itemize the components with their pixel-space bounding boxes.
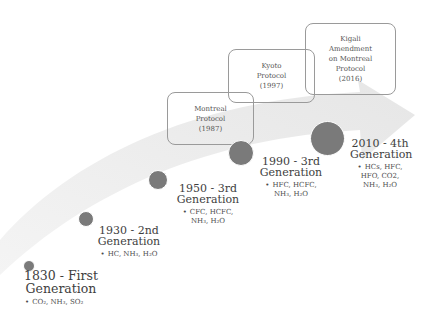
generation-title: 1950 - 3rd Generation <box>172 183 244 205</box>
refrigerant-list: •HCs, HFC, HFO, CO2, NH₃, H₂O <box>350 163 410 190</box>
generation-1930: 1930 - 2nd Generation •HC, NH₃, H₂O <box>93 225 165 259</box>
protocol-label: Montreal <box>194 104 227 114</box>
refrigerant-list: •HC, NH₃, H₂O <box>93 250 165 259</box>
protocol-label: Protocol <box>329 64 373 74</box>
generation-title: 2010 - 4th Generation <box>350 138 410 160</box>
protocol-year: (1997) <box>257 81 287 91</box>
refrigerant-list: •CO₂, NH₃, SO₂ <box>25 298 100 307</box>
protocol-label: Amendment <box>329 44 373 54</box>
protocol-box-kigali: Kigali Amendment on Montreal Protocol (2… <box>305 23 396 95</box>
protocol-label: Protocol <box>194 114 227 124</box>
protocol-label: Protocol <box>257 71 287 81</box>
protocol-box-kyoto: Kyoto Protocol (1997) <box>228 49 315 103</box>
generation-1830: 1830 - First Generation •CO₂, NH₃, SO₂ <box>22 270 100 307</box>
protocol-year: (2016) <box>329 74 373 84</box>
protocol-label: on Montreal <box>329 54 373 64</box>
protocol-year: (1987) <box>194 124 227 134</box>
generation-1990: 1990 - 3rd Generation •HFC, HCFC, NH₃, H… <box>255 156 327 199</box>
generation-2010: 2010 - 4th Generation •HCs, HFC, HFO, CO… <box>350 138 410 190</box>
timeline-dot-1950 <box>148 170 168 190</box>
generation-1950: 1950 - 3rd Generation •CFC, HCFC, NH₃, H… <box>172 183 244 226</box>
generation-title: 1990 - 3rd Generation <box>255 156 327 178</box>
refrigerant-list: •HFC, HCFC, NH₃, H₂O <box>255 181 327 199</box>
generation-title: 1830 - First Generation <box>22 270 100 295</box>
protocol-label: Kigali <box>329 34 373 44</box>
refrigerant-list: •CFC, HCFC, NH₃, H₂O <box>172 208 244 226</box>
generation-title: 1930 - 2nd Generation <box>93 225 165 247</box>
timeline-dot-2010 <box>310 121 345 156</box>
protocol-label: Kyoto <box>257 61 287 71</box>
timeline-dot-1930 <box>78 211 94 227</box>
timeline-dot-1990 <box>228 140 254 166</box>
